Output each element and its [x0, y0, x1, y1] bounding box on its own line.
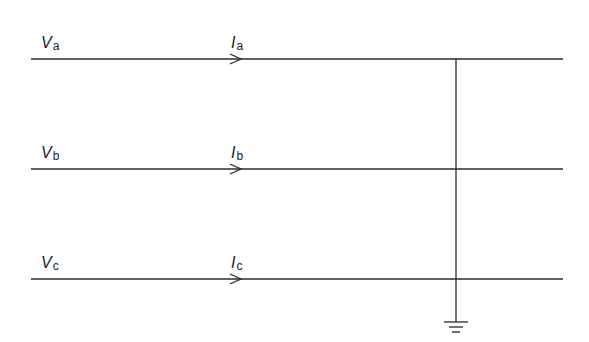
three-phase-fault-diagram: Va Ia Vb Ib Vc Ic — [0, 0, 589, 342]
phase-c-voltage-label: Vc — [41, 254, 59, 273]
phase-c: Vc Ic — [31, 254, 563, 284]
phase-b: Vb Ib — [31, 144, 563, 174]
phase-a-current-label: Ia — [231, 34, 243, 53]
phase-a-voltage-label: Va — [41, 34, 60, 53]
ground-icon — [444, 322, 468, 332]
phase-a: Va Ia — [31, 34, 563, 64]
phase-b-current-label: Ib — [231, 144, 243, 163]
phase-b-voltage-label: Vb — [41, 144, 60, 163]
phase-c-current-label: Ic — [231, 254, 242, 273]
